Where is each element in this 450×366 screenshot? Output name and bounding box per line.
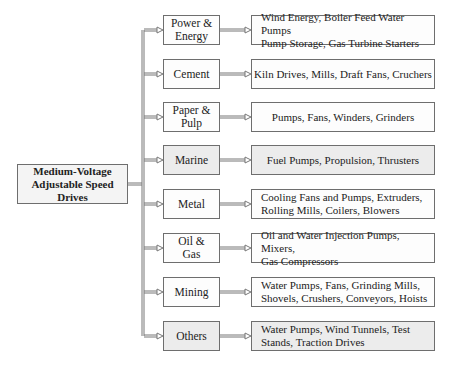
- root-title-line1: Medium-Voltage: [18, 165, 127, 178]
- category-label-line2: Gas: [178, 248, 205, 261]
- detail-line2: Stands, Traction Drives: [261, 336, 410, 349]
- category-box: Marine: [163, 145, 220, 175]
- detail-line1: Water Pumps, Wind Tunnels, Test: [261, 323, 410, 336]
- category-label-line2: Energy: [171, 30, 212, 43]
- category-label-line1: Power &: [171, 17, 212, 30]
- root-box-medium-voltage-asd: Medium-Voltage Adjustable Speed Drives: [17, 164, 128, 204]
- application-detail-box: Kiln Drives, Mills, Draft Fans, Cruchers: [251, 59, 435, 89]
- application-detail-box: Pumps, Fans, Winders, Grinders: [251, 102, 435, 132]
- category-label-line1: Oil &: [178, 235, 205, 248]
- detail-line2: Pump Storage, Gas Turbine Starters: [261, 37, 434, 50]
- application-detail-box: Wind Energy, Boiler Feed Water PumpsPump…: [251, 15, 435, 45]
- category-box: Oil &Gas: [163, 233, 220, 263]
- application-detail-box: Water Pumps, Wind Tunnels, TestStands, T…: [251, 321, 435, 351]
- category-label-line1: Marine: [175, 154, 208, 167]
- detail-line2: Gas Compressors: [261, 255, 434, 268]
- category-box: Power &Energy: [163, 15, 220, 45]
- detail-line1: Cooling Fans and Pumps, Extruders,: [261, 191, 422, 204]
- detail-line1: Kiln Drives, Mills, Draft Fans, Cruchers: [254, 68, 432, 81]
- category-box: Mining: [163, 277, 220, 307]
- application-detail-box: Water Pumps, Fans, Grinding Mills,Shovel…: [251, 277, 435, 307]
- category-box: Metal: [163, 189, 220, 219]
- detail-line1: Pumps, Fans, Winders, Grinders: [272, 111, 414, 124]
- category-label-line1: Cement: [174, 68, 210, 81]
- detail-line1: Water Pumps, Fans, Grinding Mills,: [261, 279, 427, 292]
- detail-line2: Rolling Mills, Coilers, Blowers: [261, 204, 422, 217]
- application-detail-box: Cooling Fans and Pumps, Extruders,Rollin…: [251, 189, 435, 219]
- application-detail-box: Fuel Pumps, Propulsion, Thrusters: [251, 145, 435, 175]
- root-title-line2: Adjustable Speed Drives: [18, 178, 127, 204]
- detail-line1: Oil and Water Injection Pumps, Mixers,: [261, 229, 434, 255]
- category-label-line2: Pulp: [172, 117, 210, 130]
- detail-line1: Fuel Pumps, Propulsion, Thrusters: [267, 154, 419, 167]
- category-label-line1: Paper &: [172, 104, 210, 117]
- category-box: Paper &Pulp: [163, 102, 220, 132]
- category-box: Others: [163, 321, 220, 351]
- detail-line2: Shovels, Crushers, Conveyors, Hoists: [261, 292, 427, 305]
- application-detail-box: Oil and Water Injection Pumps, Mixers,Ga…: [251, 233, 435, 263]
- category-box: Cement: [163, 59, 220, 89]
- category-label-line1: Mining: [175, 286, 209, 299]
- detail-line1: Wind Energy, Boiler Feed Water Pumps: [261, 11, 434, 37]
- category-label-line1: Others: [176, 330, 207, 343]
- category-label-line1: Metal: [178, 198, 205, 211]
